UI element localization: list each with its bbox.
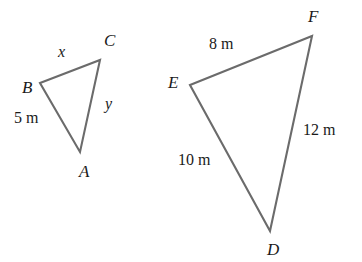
geometry-figure: B C A x y 5 m E F D 8 m 12 m 10 m [0, 0, 362, 262]
side-label-bc-x: x [58, 44, 65, 60]
side-label-ca-y: y [105, 96, 112, 112]
triangle-def-outline [190, 36, 312, 231]
side-label-fd-12m: 12 m [303, 122, 335, 138]
vertex-label-d: D [267, 241, 279, 258]
triangle-abc-outline [40, 60, 100, 152]
vertex-label-b: B [22, 79, 32, 96]
vertex-label-a: A [79, 163, 89, 180]
vertex-label-c: C [104, 32, 115, 49]
vertex-label-f: F [308, 8, 318, 25]
side-label-de-10m: 10 m [178, 152, 210, 168]
side-label-ef-8m: 8 m [209, 36, 233, 52]
vertex-label-e: E [168, 74, 178, 91]
side-label-ab-5m: 5 m [14, 110, 38, 126]
